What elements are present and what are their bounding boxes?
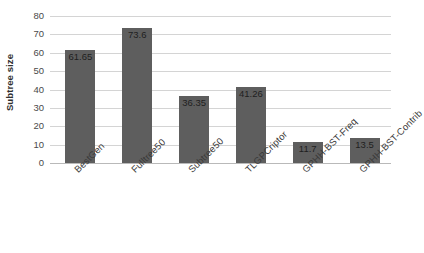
y-axis-tick-label: 20 <box>22 122 44 132</box>
y-axis-tick-label: 30 <box>22 103 44 113</box>
y-axis-tick-label: 10 <box>22 140 44 150</box>
bar-value-label: 73.6 <box>122 30 152 40</box>
y-axis-title: Subtree size <box>0 0 20 165</box>
x-axis-category-labels: BestGenFulltree50Subtree50TLGPCriptorGPH… <box>50 164 391 253</box>
bar-value-label: 41.26 <box>236 89 266 99</box>
y-axis-tick-label: 80 <box>22 11 44 21</box>
y-axis-title-text: Subtree size <box>5 54 16 111</box>
y-axis-tick-label: 60 <box>22 48 44 58</box>
y-axis-tick-labels: 80706050403020100 <box>22 0 44 253</box>
y-axis-tick-label: 50 <box>22 66 44 76</box>
bar-value-label: 36.35 <box>179 98 209 108</box>
bar-value-label: 61.65 <box>65 52 95 62</box>
y-axis-tick-label: 70 <box>22 30 44 40</box>
bar[interactable]: 61.65 <box>65 50 95 163</box>
y-axis-tick-label: 40 <box>22 85 44 95</box>
bar[interactable]: 73.6 <box>122 28 152 163</box>
y-axis-tick-label: 0 <box>22 158 44 168</box>
